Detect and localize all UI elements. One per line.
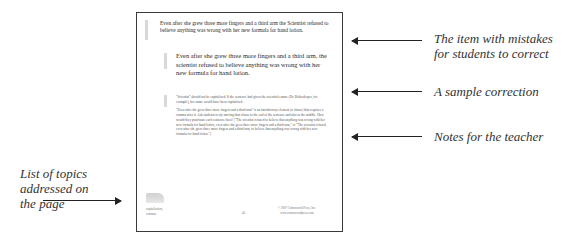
topic: commas <box>146 212 163 217</box>
section-tag-item <box>145 20 148 40</box>
annotation-line: the page <box>20 196 89 211</box>
section-tag-notes <box>164 95 167 107</box>
website-text: www.cottonwoodpress.com <box>278 211 316 216</box>
annotation-item: The item with mistakes for students to c… <box>434 31 553 61</box>
annotation-line: The item with mistakes <box>434 31 553 46</box>
arrow-item <box>352 40 422 41</box>
annotation-topics: List of topics addressed on the page <box>20 166 89 211</box>
annotation-line: List of topics <box>20 166 89 181</box>
note-paragraph: "Even after she grew three more fingers … <box>176 108 328 137</box>
arrow-topics <box>43 200 121 201</box>
annotation-line: addressed on <box>20 181 89 196</box>
arrow-notes <box>352 136 422 137</box>
item-with-mistakes: Even after she grew three more fingers a… <box>160 20 330 35</box>
teacher-notes: "Scientist" should not be capitalized. I… <box>176 95 328 140</box>
section-tag-correction <box>164 53 167 69</box>
page-number: 40 <box>242 211 245 215</box>
annotation-correction: A sample correction <box>434 84 539 99</box>
topics-list: capitalization, commas <box>146 207 163 217</box>
arrow-correction <box>352 91 422 92</box>
annotation-line: for students to correct <box>434 46 553 61</box>
publisher-logo-icon <box>146 193 164 203</box>
worksheet-page: Even after she grew three more fingers a… <box>136 12 343 232</box>
note-paragraph: "Scientist" should not be capitalized. I… <box>176 95 328 105</box>
sample-correction: Even after she grew three more fingers a… <box>176 52 328 78</box>
copyright: © 2007 Cottonwood Press, Inc. www.cotton… <box>278 206 316 216</box>
annotation-notes: Notes for the teacher <box>434 129 543 144</box>
